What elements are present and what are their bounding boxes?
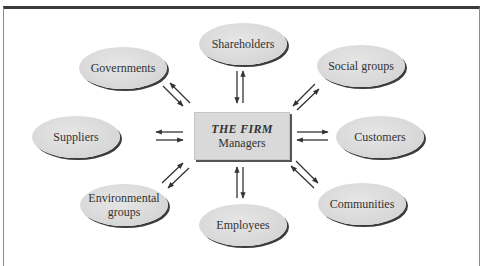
arrow-pair-shareholders (237, 71, 243, 103)
firm-title: THE FIRM (211, 122, 272, 136)
stakeholder-label: Employees (216, 218, 269, 232)
arrow-pair-social-groups (293, 84, 319, 110)
stakeholder-label: Suppliers (53, 130, 98, 144)
stakeholder-communities: Communities (318, 183, 406, 225)
firm-subtitle: Managers (218, 136, 265, 151)
stakeholder-label: Governments (91, 61, 156, 75)
arrow-pair-communities (291, 161, 318, 188)
arrow-pair-governments (163, 83, 190, 106)
stakeholder-customers: Customers (336, 116, 424, 158)
stakeholder-label: Communities (330, 197, 395, 211)
stakeholder-label: Shareholders (212, 37, 275, 51)
arrow-pair-customers (297, 132, 328, 140)
arrow-pair-employees (237, 167, 243, 198)
stakeholder-social-groups: Social groups (317, 45, 405, 87)
stakeholder-environmental-groups: Environmental groups (80, 184, 168, 226)
stakeholder-label: Environmental groups (84, 191, 164, 219)
arrow-pair-environmental-groups (162, 163, 189, 188)
stakeholder-employees: Employees (199, 204, 287, 246)
stakeholder-shareholders: Shareholders (199, 23, 287, 65)
arrow-pair-suppliers (156, 132, 183, 140)
stakeholder-suppliers: Suppliers (32, 116, 120, 158)
firm-box: THE FIRM Managers (194, 112, 290, 160)
stakeholder-label: Customers (354, 130, 405, 144)
stakeholder-governments: Governments (79, 47, 167, 89)
stakeholder-label: Social groups (328, 59, 394, 73)
